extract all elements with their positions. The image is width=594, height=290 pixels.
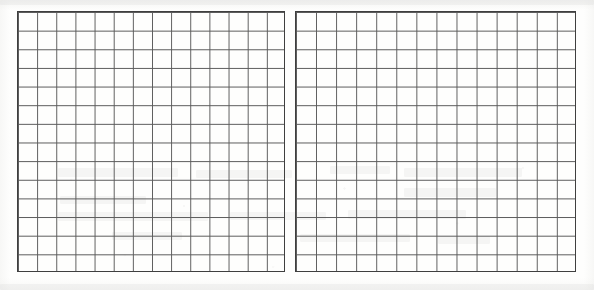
page-gutter: [285, 11, 295, 272]
right-grid-page[interactable]: [295, 11, 576, 272]
scanned-page: [0, 0, 594, 290]
left-grid-page[interactable]: [17, 11, 285, 272]
grid-spread: [17, 11, 576, 272]
